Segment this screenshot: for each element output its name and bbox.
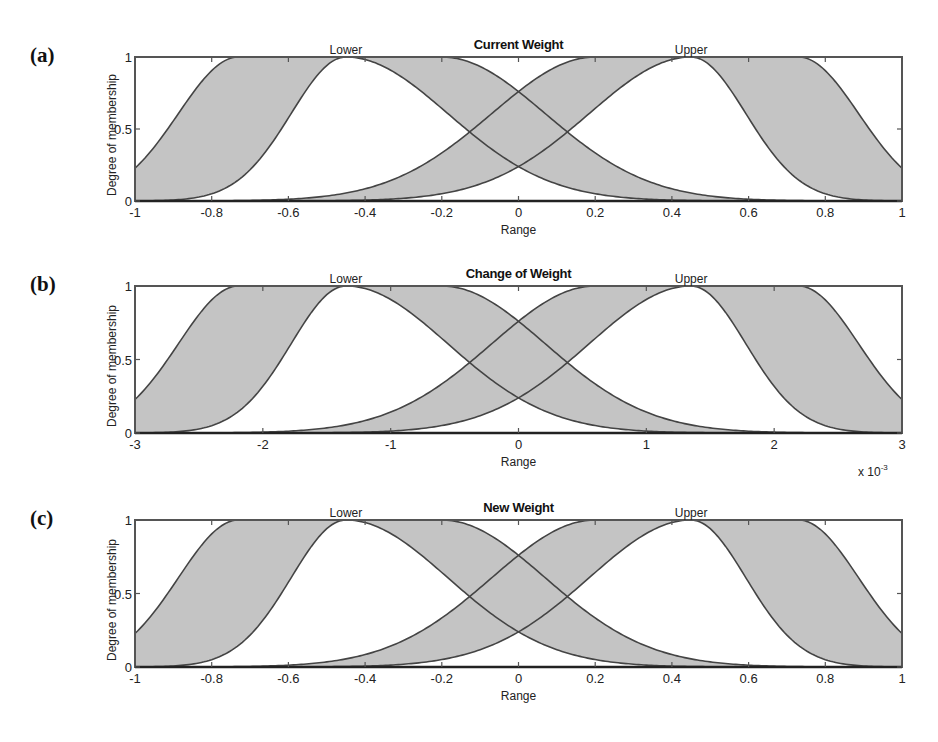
- panel-label: (a): [30, 43, 55, 68]
- x-tick-label: 0.4: [663, 205, 681, 220]
- x-tick-label: -0.6: [277, 205, 299, 220]
- y-tick-label: 0: [125, 194, 132, 209]
- y-tick-label: 0: [125, 426, 132, 441]
- mf-label-lower: Lower: [330, 506, 363, 520]
- x-tick-label: -0.6: [277, 671, 299, 686]
- panel-label: (c): [30, 506, 53, 531]
- x-axis-label: Range: [501, 689, 536, 703]
- y-axis-label: Degree of membership: [105, 74, 119, 196]
- x-tick-label: 2: [771, 437, 778, 452]
- plot-title: Change of Weight: [466, 266, 571, 281]
- y-axis-label: Degree of membership: [105, 538, 119, 660]
- plot-title: New Weight: [483, 500, 553, 515]
- panel-b-plot: [135, 286, 902, 433]
- plot-title: Current Weight: [474, 37, 563, 52]
- x-axis-label: Range: [501, 455, 536, 469]
- y-tick-label: 1: [125, 279, 132, 294]
- multiplier-base: x 10: [858, 465, 881, 479]
- y-tick-label: 0: [125, 660, 132, 675]
- y-tick-label: 1: [125, 513, 132, 528]
- y-tick-label: 1: [125, 50, 132, 65]
- y-axis-label: Degree of membership: [105, 304, 119, 426]
- x-tick-label: -0.4: [354, 671, 376, 686]
- x-tick-label: 0: [515, 205, 522, 220]
- x-tick-label: 0.6: [740, 205, 758, 220]
- x-tick-label: 1: [643, 437, 650, 452]
- x-tick-label: 0: [515, 437, 522, 452]
- x-tick-label: -0.8: [200, 671, 222, 686]
- mf-label-lower: Lower: [330, 43, 363, 57]
- x-tick-label: 1: [898, 671, 905, 686]
- x-tick-label: 0.2: [586, 205, 604, 220]
- x-tick-label: 0.4: [663, 671, 681, 686]
- x-tick-label: 0.2: [586, 671, 604, 686]
- mf-label-upper: Upper: [675, 272, 708, 286]
- panel-label: (b): [30, 272, 56, 297]
- x-tick-label: 0: [515, 671, 522, 686]
- x-tick-label: 0.6: [740, 671, 758, 686]
- panel-a-plot: [135, 57, 902, 201]
- x-tick-label: -0.2: [431, 205, 453, 220]
- x-tick-label: 0.8: [816, 671, 834, 686]
- multiplier-exponent: -3: [881, 463, 888, 472]
- x-tick-label: -0.2: [431, 671, 453, 686]
- x-tick-label: -2: [257, 437, 269, 452]
- x-tick-label: -0.8: [200, 205, 222, 220]
- panel-c-plot: [135, 520, 902, 667]
- x-axis-label: Range: [501, 223, 536, 237]
- x-tick-label: -0.4: [354, 205, 376, 220]
- x-tick-label: 3: [898, 437, 905, 452]
- mf-label-upper: Upper: [675, 43, 708, 57]
- x-tick-label: -1: [385, 437, 397, 452]
- mf-label-upper: Upper: [675, 506, 708, 520]
- plots-canvas: [0, 0, 938, 742]
- x-tick-label: 1: [898, 205, 905, 220]
- x-multiplier-label: x 10-3: [858, 463, 888, 479]
- x-tick-label: 0.8: [816, 205, 834, 220]
- mf-label-lower: Lower: [330, 272, 363, 286]
